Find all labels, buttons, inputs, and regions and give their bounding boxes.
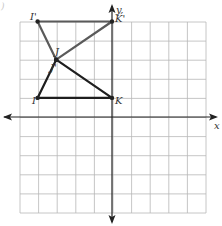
vertex-label: K xyxy=(114,95,123,106)
vertex-point xyxy=(35,96,39,100)
image-triangle-outline xyxy=(38,22,112,60)
vertex-label: J' xyxy=(48,62,57,73)
coordinate-plane-figure: x y, I'K'JJ'IK ) xyxy=(0,0,222,226)
vertex-label: I' xyxy=(29,11,37,22)
vertex-labels: I'K'JJ'IK xyxy=(29,11,125,106)
vertex-label: K' xyxy=(114,13,125,24)
coordinate-grid: x y, I'K'JJ'IK ) xyxy=(0,0,222,226)
vertex-point xyxy=(110,19,114,23)
original-triangle-outline xyxy=(38,60,112,98)
original-triangle xyxy=(38,60,112,98)
x-axis-label: x xyxy=(214,120,220,131)
corner-mark: ) xyxy=(0,1,5,11)
vertex-points xyxy=(35,19,114,100)
vertex-point xyxy=(110,96,114,100)
vertex-label: J xyxy=(53,46,60,57)
image-triangle xyxy=(38,22,112,60)
